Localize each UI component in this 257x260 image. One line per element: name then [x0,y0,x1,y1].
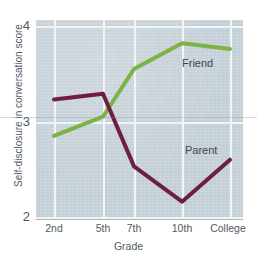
x-tick-label-10th: 10th [172,222,192,234]
series-label-friend: Friend [182,57,213,69]
x-tick-label-college: College [210,222,246,234]
series-label-parent: Parent [185,144,217,156]
series-container [36,20,243,219]
x-axis-title: Grade [0,240,257,252]
x-tick-label-5th: 5th [96,222,111,234]
y-tick-label-2: 2 [0,209,30,224]
plot-area [36,20,243,219]
scan-artifact-line [0,117,257,118]
x-tick-label-7th: 7th [127,222,142,234]
y-axis-title: Self-disclosure in conversation score [13,6,24,206]
line-chart-figure: Friend Parent 4 3 2 Self-disclosure in c… [0,0,257,260]
x-tick-label-2nd: 2nd [45,222,63,234]
x-axis-baseline [36,219,243,220]
